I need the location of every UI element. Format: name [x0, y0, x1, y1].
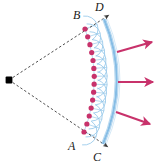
- wavefront-source-dot: [85, 34, 90, 39]
- wavefront-source-dot: [87, 42, 92, 47]
- wavefront-source-dot: [90, 97, 95, 102]
- new-wavefront-group: [101, 19, 120, 144]
- wavefront-source-dot: [89, 50, 94, 55]
- label-a: A: [68, 140, 75, 152]
- wavefront-source-dot: [82, 26, 87, 31]
- label-d: D: [95, 1, 104, 13]
- wavefront-source-dot: [92, 74, 97, 79]
- wavefront-source-dot: [92, 82, 97, 87]
- label-b: B: [73, 9, 80, 21]
- propagation-arrow-upper: [117, 42, 152, 52]
- propagation-arrow-lower: [116, 112, 150, 124]
- wavefront-source-dot: [91, 66, 96, 71]
- point-source-group: [6, 77, 13, 84]
- propagation-arrows-group: [116, 42, 153, 124]
- label-c: C: [93, 151, 101, 163]
- point-source-marker: [6, 77, 13, 84]
- wavefront-source-dot: [90, 58, 95, 63]
- wavefront-source-dot: [81, 129, 86, 134]
- diagram-canvas: [0, 0, 160, 165]
- wavefront-source-dot: [87, 113, 92, 118]
- wavefront-source-dot: [84, 121, 89, 126]
- wavefront-source-dot: [91, 90, 96, 95]
- wavefront-source-dot: [89, 105, 94, 110]
- huygens-wavefront-diagram: B D A C: [0, 0, 160, 165]
